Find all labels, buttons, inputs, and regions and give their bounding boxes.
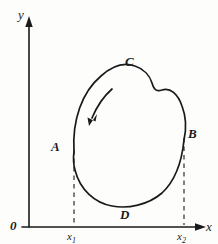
y-axis — [25, 16, 32, 227]
y-axis-arrowhead — [25, 16, 32, 27]
origin-label: 0 — [10, 219, 17, 232]
point-label-c: C — [125, 55, 134, 68]
y-axis-label: y — [18, 8, 24, 21]
tick-label-x2-subscript: 2 — [182, 236, 186, 244]
closed-cycle-curve — [73, 64, 185, 206]
figure-drawing — [0, 0, 218, 244]
tick-label-x1-subscript: 1 — [72, 236, 76, 244]
direction-arrow — [88, 89, 113, 126]
point-label-a: A — [51, 140, 60, 153]
direction-arrow-shaft — [92, 89, 112, 118]
tick-label-x1: x1 — [67, 231, 76, 244]
x-axis-label: x — [206, 220, 212, 233]
figure-container: y x 0 x1 x2 A B C D — [0, 0, 218, 244]
x-axis-arrowhead — [195, 223, 206, 230]
point-label-d: D — [120, 208, 129, 221]
tick-label-x2: x2 — [177, 231, 186, 244]
point-label-b: B — [188, 127, 197, 140]
